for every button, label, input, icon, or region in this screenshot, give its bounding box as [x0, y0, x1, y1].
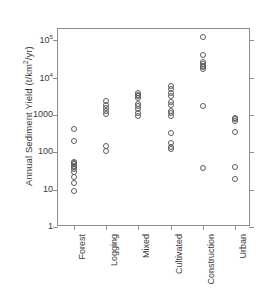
data-point	[71, 138, 77, 144]
x-tick-label-urban: Urban	[238, 234, 248, 259]
data-point	[168, 83, 174, 89]
y-tick-label-exponent: 4	[50, 71, 53, 78]
sediment-yield-chart: Annual Sediment Yield (t/km2/yr) 1101001…	[0, 0, 274, 303]
data-point	[71, 180, 77, 186]
y-tick-label: 10	[43, 184, 53, 194]
plot-area	[57, 28, 250, 226]
data-point	[103, 143, 109, 149]
y-tick-label: 1	[48, 221, 53, 231]
data-point	[200, 165, 206, 171]
data-point	[103, 98, 109, 104]
x-tick-label-mixed: Mixed	[141, 234, 151, 258]
data-point	[135, 101, 141, 107]
y-tick-mark-right	[249, 152, 254, 153]
y-tick-mark-right	[249, 115, 254, 116]
data-point	[200, 103, 206, 109]
data-point	[103, 148, 109, 154]
y-tick-label: 104	[40, 71, 53, 83]
data-point	[200, 34, 206, 40]
y-tick-label: 100	[38, 146, 53, 156]
data-point	[71, 188, 77, 194]
data-point	[71, 159, 77, 165]
y-tick-label-base: 1000	[33, 109, 53, 119]
data-point	[232, 115, 238, 121]
y-tick-mark-left	[53, 115, 58, 116]
y-tick-mark-right	[249, 190, 254, 191]
y-tick-label-base: 10	[40, 73, 50, 83]
x-tick-label-logging: Logging	[109, 234, 119, 266]
data-point	[135, 90, 141, 96]
x-tick-label-forest: Forest	[77, 234, 87, 260]
data-point	[232, 176, 238, 182]
data-point	[232, 164, 238, 170]
y-tick-mark-left	[53, 40, 58, 41]
x-tick-label-cultivated: Cultivated	[174, 234, 184, 274]
y-tick-mark-left	[53, 152, 58, 153]
y-tick-mark-left	[53, 190, 58, 191]
y-tick-label: 1000	[33, 109, 53, 119]
y-tick-mark-left	[53, 78, 58, 79]
data-point	[71, 126, 77, 132]
data-point	[232, 129, 238, 135]
y-tick-label-base: 10	[40, 35, 50, 45]
data-point	[168, 130, 174, 136]
data-point	[168, 108, 174, 114]
y-tick-label-base: 100	[38, 146, 53, 156]
data-point	[200, 59, 206, 65]
y-tick-label-base: 1	[48, 221, 53, 231]
y-axis-tick-labels: 1101001000104105	[0, 0, 53, 303]
y-tick-mark-right	[249, 78, 254, 79]
data-point	[200, 52, 206, 58]
data-point	[168, 140, 174, 146]
y-tick-label-exponent: 5	[50, 33, 53, 40]
x-tick-label-construction: Construction	[206, 234, 216, 285]
y-tick-label-base: 10	[43, 184, 53, 194]
y-tick-label: 105	[40, 33, 53, 45]
x-axis-tick-labels: ForestLoggingMixedCultivatedConstruction…	[57, 226, 250, 303]
data-point	[168, 99, 174, 105]
y-tick-mark-right	[249, 40, 254, 41]
